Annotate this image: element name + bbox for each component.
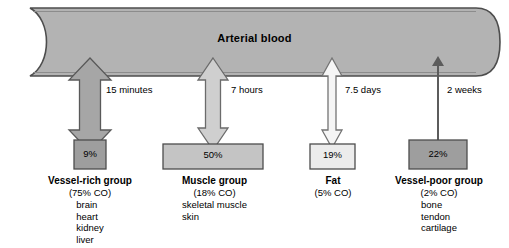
tissue-item: kidney [76, 222, 103, 234]
group-co-muscle: (18% CO) [152, 187, 277, 199]
group-caption-vessel-poor: Vessel-poor group (2% CO) bone tendon ca… [373, 175, 505, 235]
group-caption-vessel-rich: Vessel-rich group (75% CO) brain heart k… [12, 175, 168, 247]
tissue-item: bone [421, 199, 457, 211]
time-label-fat: 7.5 days [345, 84, 381, 95]
tissue-item: tendon [421, 211, 457, 223]
diagram-canvas: Arterial blood 15 minutes 7 hours 7.5 da… [0, 0, 509, 248]
group-caption-muscle: Muscle group (18% CO) skeletal muscle sk… [152, 175, 277, 224]
time-label-vessel-rich: 15 minutes [106, 84, 152, 95]
percent-value-muscle: 50% [163, 149, 263, 160]
group-name-fat: Fat [293, 175, 373, 187]
group-co-vessel-poor: (2% CO) [373, 187, 505, 199]
time-label-muscle: 7 hours [231, 84, 263, 95]
tissue-item: skin [182, 211, 247, 223]
tissue-item: brain [76, 199, 103, 211]
percent-value-fat: 19% [310, 149, 355, 160]
vessel-title: Arterial blood [0, 32, 509, 44]
percent-value-vessel-rich: 9% [74, 148, 106, 159]
tissue-item: heart [76, 211, 103, 223]
arrow-fat [322, 58, 342, 148]
group-name-vessel-rich: Vessel-rich group [12, 175, 168, 187]
group-name-vessel-poor: Vessel-poor group [373, 175, 505, 187]
group-caption-fat: Fat (5% CO) [293, 175, 373, 199]
group-co-vessel-rich: (75% CO) [12, 187, 168, 199]
time-label-vessel-poor: 2 weeks [447, 84, 482, 95]
group-co-fat: (5% CO) [293, 187, 373, 199]
tissue-item: cartilage [421, 222, 457, 234]
group-name-muscle: Muscle group [152, 175, 277, 187]
tissue-item: liver [76, 234, 103, 246]
percent-value-vessel-poor: 22% [409, 148, 467, 159]
tissue-item: skeletal muscle [182, 199, 247, 211]
